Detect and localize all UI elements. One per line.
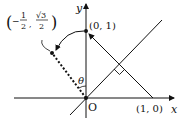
theta-label: θ [78,75,84,86]
point-0-1 [84,29,88,33]
right-angle-marker [114,69,125,75]
rotation-diagram: y x O (0, 1) (1, 0) θ ( − 1 2 , √3 2 ) [0,0,179,119]
segment-10-to-01 [89,34,153,98]
svg-text:−: − [12,16,20,26]
svg-text:2: 2 [39,22,44,31]
svg-text:): ) [51,13,57,32]
x-axis-label: x [171,103,178,116]
svg-text:√3: √3 [36,11,46,20]
y-axis-label: y [75,2,83,15]
line-y-equals-x [70,20,162,115]
label-leader [42,40,50,51]
svg-text:1: 1 [21,11,26,20]
point-rotated [50,51,54,55]
point-origin [84,96,88,100]
point-1-0-label: (1, 0) [136,103,163,114]
svg-text:,: , [29,20,32,29]
svg-text:2: 2 [21,22,26,31]
origin-label: O [88,101,97,114]
theta-arc [79,86,86,88]
point-0-1-label: (0, 1) [89,20,116,31]
point-rotated-label: ( − 1 2 , √3 2 ) [6,11,57,32]
rotation-arrow [56,31,84,50]
